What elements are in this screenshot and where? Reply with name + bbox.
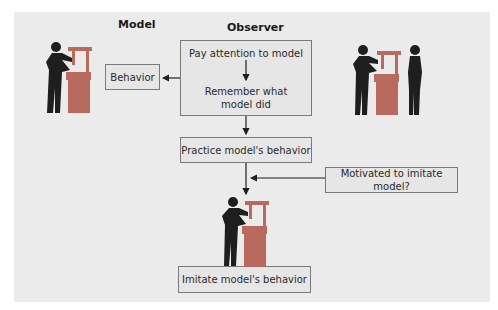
diagram-graphics [0, 0, 498, 310]
model-figure-icon [46, 42, 92, 113]
imitator-figure-icon [222, 197, 269, 267]
observer-pair-icon [353, 45, 422, 115]
